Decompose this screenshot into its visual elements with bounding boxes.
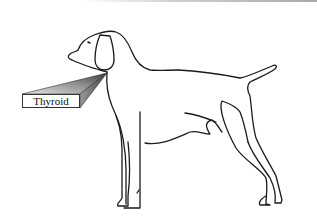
- dog-dewclaw: [137, 190, 139, 193]
- dog-front-leg-inner: [116, 116, 126, 204]
- dog-eye: [88, 42, 90, 43]
- dog-head: [68, 31, 178, 72]
- dog-hind-leg: [221, 101, 270, 205]
- thyroid-label: Thyroid: [22, 94, 80, 108]
- dog-illustration: [0, 0, 317, 220]
- dog-ear: [95, 35, 114, 70]
- dog-thigh-line: [185, 113, 216, 122]
- dog-belly: [145, 120, 222, 144]
